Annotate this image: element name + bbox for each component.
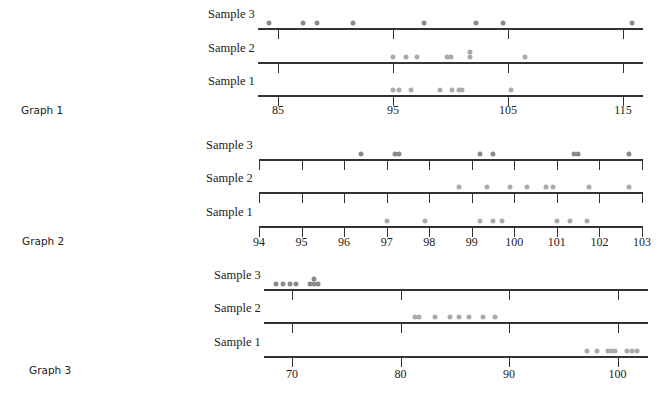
axis-tick bbox=[259, 194, 260, 203]
data-point bbox=[433, 315, 438, 320]
data-point bbox=[576, 152, 581, 157]
axis-tick bbox=[259, 161, 260, 170]
data-point bbox=[417, 315, 422, 320]
x-tick-label: 97 bbox=[381, 235, 393, 250]
axis-line bbox=[264, 322, 648, 324]
axis-tick bbox=[642, 161, 643, 170]
data-point bbox=[404, 55, 409, 60]
data-point bbox=[595, 349, 600, 354]
data-point bbox=[397, 152, 402, 157]
axis-tick bbox=[618, 291, 619, 300]
data-point bbox=[468, 50, 473, 55]
axis-tick bbox=[401, 358, 402, 367]
x-tick-label: 102 bbox=[590, 235, 608, 250]
axis-line bbox=[264, 289, 648, 291]
data-point bbox=[457, 185, 462, 190]
data-point bbox=[491, 152, 496, 157]
data-point bbox=[409, 88, 414, 93]
axis-line bbox=[258, 28, 643, 30]
axis-tick bbox=[401, 324, 402, 333]
data-point bbox=[351, 21, 356, 26]
graph-title: Graph 3 bbox=[29, 364, 71, 376]
data-point bbox=[493, 315, 498, 320]
axis-tick bbox=[623, 64, 624, 73]
axis-tick bbox=[292, 291, 293, 300]
axis-tick bbox=[472, 194, 473, 203]
data-point bbox=[613, 349, 618, 354]
data-point bbox=[467, 315, 472, 320]
data-point bbox=[523, 55, 528, 60]
axis-tick bbox=[509, 358, 510, 367]
axis-line bbox=[258, 95, 643, 97]
x-tick-label: 95 bbox=[387, 103, 399, 118]
axis-line bbox=[259, 226, 643, 228]
x-tick-label: 80 bbox=[395, 367, 407, 382]
data-point bbox=[585, 349, 590, 354]
x-tick-label: 96 bbox=[338, 235, 350, 250]
axis-tick bbox=[599, 161, 600, 170]
axis-tick bbox=[344, 194, 345, 203]
data-point bbox=[281, 282, 286, 287]
data-point bbox=[627, 185, 632, 190]
data-point bbox=[485, 185, 490, 190]
data-point bbox=[481, 315, 486, 320]
data-point bbox=[478, 219, 483, 224]
data-point bbox=[627, 152, 632, 157]
data-point bbox=[415, 55, 420, 60]
axis-tick bbox=[508, 64, 509, 73]
data-point bbox=[568, 219, 573, 224]
data-point bbox=[585, 219, 590, 224]
data-point bbox=[391, 88, 396, 93]
x-tick-label: 99 bbox=[466, 235, 478, 250]
data-point bbox=[294, 282, 299, 287]
data-point bbox=[635, 349, 640, 354]
x-tick-label: 94 bbox=[253, 235, 265, 250]
axis-tick bbox=[278, 64, 279, 73]
data-point bbox=[478, 152, 483, 157]
data-point bbox=[315, 21, 320, 26]
data-point bbox=[449, 55, 454, 60]
data-point bbox=[630, 21, 635, 26]
data-point bbox=[509, 88, 514, 93]
sample-label: Sample 1 bbox=[214, 335, 261, 350]
x-tick-label: 105 bbox=[499, 103, 517, 118]
data-point bbox=[422, 21, 427, 26]
data-point bbox=[500, 219, 505, 224]
data-point bbox=[468, 55, 473, 60]
data-point bbox=[423, 219, 428, 224]
data-point bbox=[555, 219, 560, 224]
sample-label: Sample 2 bbox=[214, 301, 261, 316]
data-point bbox=[267, 21, 272, 26]
axis-tick bbox=[514, 194, 515, 203]
data-point bbox=[457, 315, 462, 320]
data-point bbox=[316, 282, 321, 287]
data-point bbox=[491, 219, 496, 224]
sample-label: Sample 3 bbox=[208, 7, 255, 22]
data-point bbox=[359, 152, 364, 157]
data-point bbox=[525, 185, 530, 190]
axis-tick bbox=[393, 64, 394, 73]
axis-line bbox=[258, 62, 643, 64]
data-point bbox=[438, 88, 443, 93]
data-point bbox=[551, 185, 556, 190]
axis-tick bbox=[509, 324, 510, 333]
data-point bbox=[474, 21, 479, 26]
axis-tick bbox=[344, 161, 345, 170]
data-point bbox=[288, 282, 293, 287]
axis-tick bbox=[292, 324, 293, 333]
axis-tick bbox=[508, 30, 509, 39]
data-point bbox=[274, 282, 279, 287]
axis-tick bbox=[472, 161, 473, 170]
data-point bbox=[460, 88, 465, 93]
data-point bbox=[544, 185, 549, 190]
graph-title: Graph 2 bbox=[22, 235, 64, 247]
axis-line bbox=[259, 192, 643, 194]
data-point bbox=[397, 88, 402, 93]
x-tick-label: 70 bbox=[286, 367, 298, 382]
axis-tick bbox=[618, 324, 619, 333]
sample-label: Sample 2 bbox=[206, 171, 253, 186]
data-point bbox=[385, 219, 390, 224]
axis-tick bbox=[401, 291, 402, 300]
axis-tick bbox=[393, 30, 394, 39]
axis-tick bbox=[387, 194, 388, 203]
